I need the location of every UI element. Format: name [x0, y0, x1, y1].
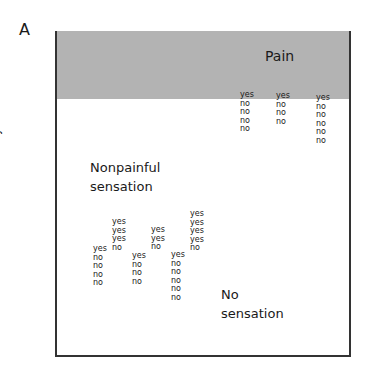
response-no: no: [93, 279, 107, 288]
pain-region: [57, 31, 349, 99]
response-column: yesnonono: [132, 252, 146, 286]
response-column: yesnononono: [93, 245, 107, 288]
panel-label: A: [19, 20, 30, 39]
response-no: no: [112, 244, 126, 253]
no-sensation-label: No sensation: [221, 285, 284, 323]
response-column: yesnonononono: [171, 251, 185, 303]
response-column: yesnononono: [240, 91, 254, 134]
response-no: no: [171, 294, 185, 303]
response-column: yesyesyesyesno: [190, 210, 204, 253]
nonpainful-line-1: Nonpainful: [90, 158, 160, 177]
response-column: yesnonono: [276, 92, 290, 126]
no-sensation-line-2: sensation: [221, 304, 284, 323]
pain-label: Pain: [265, 47, 294, 66]
nonpainful-sensation-label: Nonpainful sensation: [90, 158, 160, 196]
response-no: no: [240, 125, 254, 134]
response-column: yesnonononono: [316, 94, 330, 146]
response-no: no: [316, 137, 330, 146]
response-no: no: [151, 243, 165, 252]
response-column: yesyesno: [151, 226, 165, 252]
response-column: yesyesyesno: [112, 218, 126, 252]
nonpainful-line-2: sensation: [90, 177, 160, 196]
y-axis-label-text: Stimulus intensity: [0, 136, 2, 236]
response-no: no: [190, 244, 204, 253]
response-no: no: [276, 118, 290, 127]
response-no: no: [132, 278, 146, 287]
no-sensation-line-1: No: [221, 285, 284, 304]
